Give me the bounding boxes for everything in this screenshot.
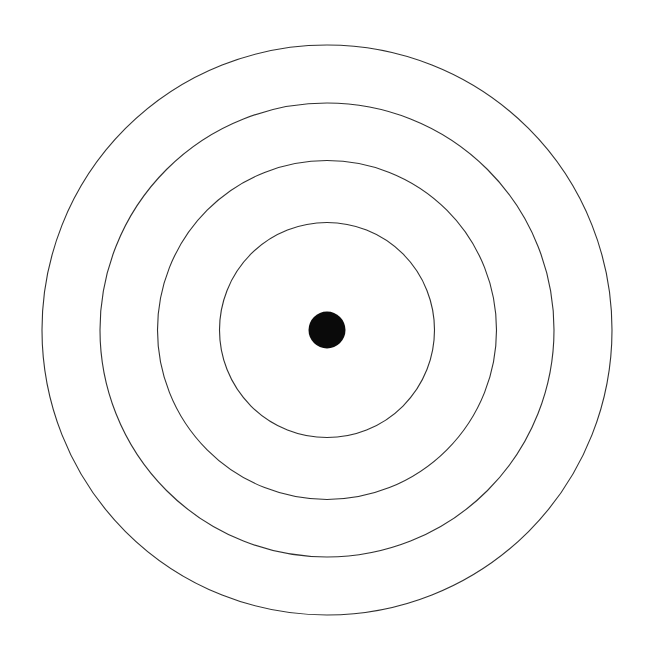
concentric-circles-diagram <box>0 0 646 657</box>
diagram-svg <box>0 0 646 657</box>
center-dot <box>309 312 346 349</box>
